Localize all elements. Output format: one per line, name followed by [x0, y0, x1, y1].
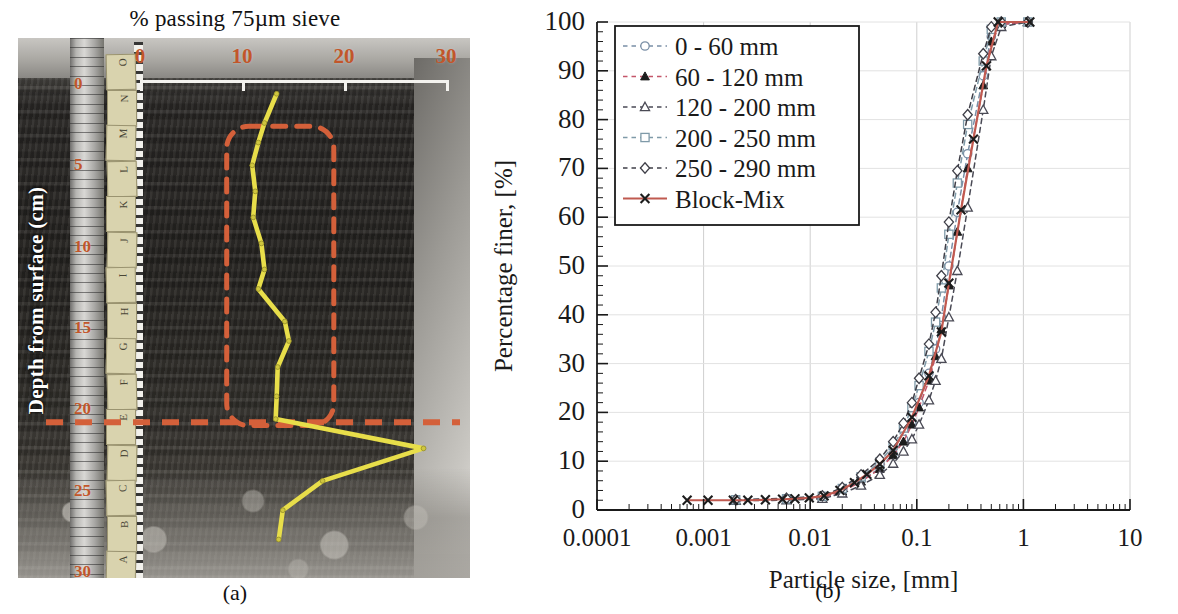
data-marker	[899, 447, 908, 455]
profile-point	[274, 394, 279, 399]
panel-b-caption: (b)	[478, 578, 1178, 604]
depth-tick-5: 5	[74, 155, 83, 175]
y-tick-label: 0	[572, 494, 586, 524]
x-tick-label: 0.001	[675, 524, 731, 551]
data-marker	[907, 434, 916, 442]
profile-point	[262, 121, 267, 126]
depth-tick-20: 20	[74, 399, 91, 419]
profile-line	[252, 94, 423, 540]
y-tick-label: 70	[558, 152, 585, 182]
y-tick-label: 80	[558, 104, 585, 134]
profile-point	[320, 479, 325, 484]
profile-point	[287, 339, 292, 344]
profile-point	[280, 508, 285, 513]
gradation-chart: 01020304050607080901000.00010.0010.010.1…	[478, 0, 1178, 614]
data-marker	[945, 230, 953, 238]
panel-a-caption: (a)	[0, 580, 470, 606]
panel-b-chart: 01020304050607080901000.00010.0010.010.1…	[478, 0, 1178, 614]
y-tick-label: 20	[558, 396, 585, 426]
y-tick-label: 30	[558, 348, 585, 378]
y-axis-title: Percentage finer, [%]	[490, 160, 517, 372]
profile-point	[273, 417, 278, 422]
data-marker	[953, 266, 962, 274]
depth-tick-15: 15	[74, 318, 91, 338]
y-tick-label: 40	[558, 299, 585, 329]
depth-axis-label: Depth from surface (cm)	[24, 151, 49, 451]
panel-a-x-label-10: 10	[232, 44, 253, 69]
profile-point	[256, 287, 261, 292]
figure-root: % passing 75µm sieve ONMLKJIHGFEDCBA Dep	[0, 0, 1178, 614]
data-marker	[641, 42, 649, 50]
data-marker	[944, 217, 953, 227]
passing-profile-curve	[250, 91, 426, 542]
x-tick-label: 0.0001	[563, 524, 632, 551]
depth-tick-25: 25	[74, 481, 91, 501]
data-marker	[641, 133, 649, 141]
x-tick-label: 1	[1017, 524, 1030, 551]
legend-label: 0 - 60 mm	[675, 33, 779, 60]
profile-point	[259, 241, 264, 246]
profile-point	[250, 163, 255, 168]
soil-profile-photo: ONMLKJIHGFEDCBA Depth from surface (cm) …	[18, 38, 470, 578]
profile-point	[282, 319, 287, 324]
legend-label: 60 - 120 mm	[675, 64, 804, 91]
legend-label: 250 - 290 mm	[675, 155, 817, 182]
panel-a-x-label-0: 0	[135, 44, 146, 69]
profile-point	[276, 537, 281, 542]
y-tick-label: 50	[558, 250, 585, 280]
x-tick-label: 0.1	[901, 524, 932, 551]
chart-legend: 0 - 60 mm60 - 120 mm120 - 200 mm200 - 25…	[615, 26, 859, 225]
profile-point	[256, 140, 261, 145]
x-tick-label: 0.01	[788, 524, 832, 551]
depth-tick-0: 0	[74, 74, 83, 94]
panel-a-title: % passing 75µm sieve	[0, 6, 470, 32]
y-tick-label: 10	[558, 445, 585, 475]
profile-point	[274, 91, 279, 96]
panel-a-x-label-20: 20	[334, 44, 355, 69]
profile-point	[262, 267, 267, 272]
legend-label: 120 - 200 mm	[675, 94, 817, 121]
depth-tick-30: 30	[74, 562, 91, 578]
data-marker	[924, 395, 933, 403]
profile-point	[275, 365, 280, 370]
profile-point	[421, 446, 426, 451]
depth-tick-10: 10	[74, 237, 91, 257]
zone-box	[227, 126, 334, 425]
legend-label: 200 - 250 mm	[675, 125, 817, 152]
y-tick-label: 60	[558, 201, 585, 231]
data-marker	[964, 120, 972, 128]
panel-a-photo: % passing 75µm sieve ONMLKJIHGFEDCBA Dep	[0, 0, 478, 614]
legend-label: Block-Mix	[675, 186, 785, 213]
panel-a-x-label-30: 30	[436, 44, 457, 69]
profile-point	[253, 189, 258, 194]
y-tick-label: 100	[545, 6, 586, 36]
y-tick-label: 90	[558, 55, 585, 85]
x-tick-label: 10	[1118, 524, 1143, 551]
data-marker	[963, 110, 972, 120]
highlight-zone-annotation	[227, 126, 334, 425]
profile-point	[251, 215, 256, 220]
